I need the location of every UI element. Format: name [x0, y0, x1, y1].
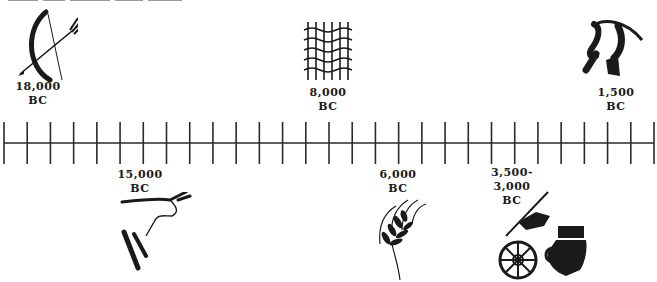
bow-and-arrow-icon — [8, 8, 78, 84]
event-label-18000bc: 18,000 BC — [0, 80, 78, 108]
cave-painting-bull-icon — [120, 192, 192, 272]
event-era: BC — [288, 100, 368, 114]
plow-icon — [582, 18, 648, 80]
event-label-6000bc: 6,000 BC — [358, 168, 438, 196]
timeline-axis — [0, 118, 657, 168]
event-year: 15,000 — [117, 168, 162, 181]
woven-net-icon — [302, 20, 354, 82]
event-year: 3,500- — [491, 166, 533, 179]
wheat-stalk-icon — [372, 194, 432, 282]
event-year: 6,000 — [380, 168, 417, 181]
event-year: 8,000 — [310, 86, 347, 99]
event-label-1500bc: 1,500 BC — [576, 86, 656, 114]
event-era: BC — [576, 100, 656, 114]
event-year: 1,500 — [598, 86, 635, 99]
event-era: BC — [0, 94, 78, 108]
clipped-caption-line — [8, 0, 208, 3]
event-year: 18,000 — [15, 80, 60, 93]
event-label-8000bc: 8,000 BC — [288, 86, 368, 114]
writing-wheel-pottery-icon — [496, 190, 592, 280]
